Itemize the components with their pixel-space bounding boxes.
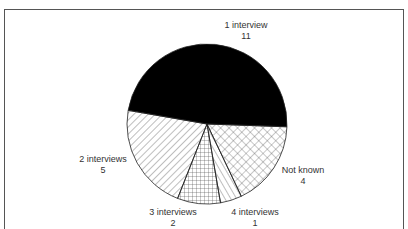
label-value: 4 [281,176,325,187]
label-value: 5 [78,165,128,176]
label-value: 1 [229,218,281,229]
label-value: 11 [221,31,271,42]
label-4-interviews: 4 interviews 1 [229,207,281,229]
label-name: 3 interviews [148,207,198,218]
label-name: Not known [281,165,325,176]
label-name: 1 interview [221,20,271,31]
label-1-interview: 1 interview 11 [221,20,271,42]
label-value: 2 [148,218,198,229]
pie-chart [0,0,408,229]
label-not-known: Not known 4 [281,165,325,187]
label-name: 2 interviews [78,154,128,165]
label-name: 4 interviews [229,207,281,218]
label-3-interviews: 3 interviews 2 [148,207,198,229]
label-2-interviews: 2 interviews 5 [78,154,128,176]
